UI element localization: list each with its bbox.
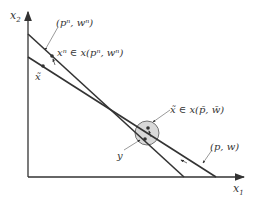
leader-y	[124, 140, 140, 150]
arrow-xn	[53, 59, 55, 65]
point-xn	[50, 54, 54, 58]
label-x-tilde-in: x̃ ∈ x(p̄, w̄)	[170, 104, 224, 115]
point-x-tilde-left	[41, 64, 45, 68]
y-axis-label: x2	[10, 9, 21, 24]
leader-x-tilde-in	[153, 110, 170, 122]
axes	[28, 12, 244, 177]
x-axis-label: x1	[233, 182, 244, 197]
label-pn-wn: (pⁿ, wⁿ)	[56, 17, 93, 28]
point-y	[143, 137, 147, 141]
label-p-w: (p, w)	[210, 141, 239, 152]
point-x-tilde	[146, 126, 150, 130]
label-y: y	[116, 150, 123, 161]
diagram: x2 x1 (pⁿ, wⁿ) xⁿ ∈ x(pⁿ, wⁿ) x̃ x̃ ∈ x(…	[0, 0, 258, 201]
label-xn-in: xⁿ ∈ x(pⁿ, wⁿ)	[57, 47, 123, 58]
arrow-lower	[181, 160, 187, 163]
label-x-tilde: x̃	[35, 71, 41, 82]
